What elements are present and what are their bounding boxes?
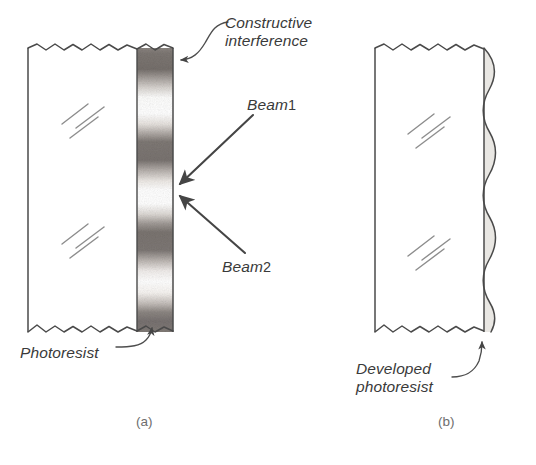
substrate-hatch-upper-a	[62, 104, 104, 138]
substrate-hatch-lower-b	[408, 236, 450, 270]
label-photoresist: Photoresist	[20, 344, 99, 362]
label-constructive-line2: interference	[225, 32, 308, 49]
substrate-top-torn-edge-a	[28, 44, 137, 50]
label-beam-1-number: 1	[288, 97, 296, 113]
label-developed-line2: photoresist	[356, 378, 433, 395]
figure-root: Constructiveinterference Beam1 Beam2 Pho…	[0, 0, 536, 465]
label-developed-line1: Developed	[356, 360, 431, 377]
photoresist-fringe-band	[137, 48, 173, 332]
beam-1-arrow	[180, 115, 253, 184]
substrate-top-torn-edge-b	[375, 44, 484, 50]
label-developed-photoresist: Developedphotoresist	[356, 360, 433, 396]
label-beam-2: Beam2	[222, 258, 271, 276]
figure-diagram-svg	[0, 0, 536, 465]
substrate-bottom-torn-edge-b	[375, 325, 484, 332]
label-beam-2-word: Beam	[222, 258, 263, 275]
panel-b	[375, 44, 496, 377]
substrate-hatch-upper-b	[408, 114, 450, 148]
caption-panel-b: (b)	[438, 414, 455, 429]
panel-a	[28, 22, 253, 347]
label-beam-2-number: 2	[263, 259, 271, 275]
constructive-interference-leader	[181, 22, 228, 60]
caption-panel-a: (a)	[136, 414, 153, 429]
substrate-hatch-lower-a	[62, 224, 104, 258]
beam-2-arrow	[180, 196, 245, 253]
developed-photoresist-leader	[452, 342, 482, 377]
label-beam-1-word: Beam	[247, 96, 288, 113]
label-constructive-interference: Constructiveinterference	[225, 14, 312, 50]
substrate-bottom-torn-edge-a	[28, 325, 137, 332]
label-constructive-line1: Constructive	[225, 14, 312, 31]
label-beam-1: Beam1	[247, 96, 296, 114]
